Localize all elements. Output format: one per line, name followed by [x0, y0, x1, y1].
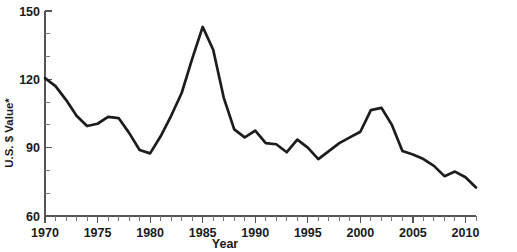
x-tick-label: 2005	[399, 226, 427, 240]
y-axis-title: U.S. $ Value*	[3, 98, 15, 168]
y-tick-label: 120	[19, 73, 40, 87]
x-tick-label: 2010	[452, 226, 480, 240]
line-chart: 6090120150 19701975198019851990199520002…	[0, 0, 517, 252]
x-tick-label: 1980	[136, 226, 164, 240]
x-axis-title: Year	[212, 237, 239, 251]
x-tick-label: 1990	[241, 226, 269, 240]
y-tick-label: 60	[26, 210, 40, 224]
y-tick-label: 150	[19, 5, 40, 19]
x-tick-labels: 197019751980198519901995200020052010	[31, 226, 479, 240]
chart-canvas: 6090120150 19701975198019851990199520002…	[0, 0, 517, 252]
x-tick-label: 2000	[346, 226, 374, 240]
y-tick-label: 90	[26, 141, 40, 155]
chart-background	[0, 0, 517, 252]
x-tick-label: 1975	[84, 226, 112, 240]
x-tick-label: 1995	[294, 226, 322, 240]
x-tick-label: 1970	[31, 226, 59, 240]
